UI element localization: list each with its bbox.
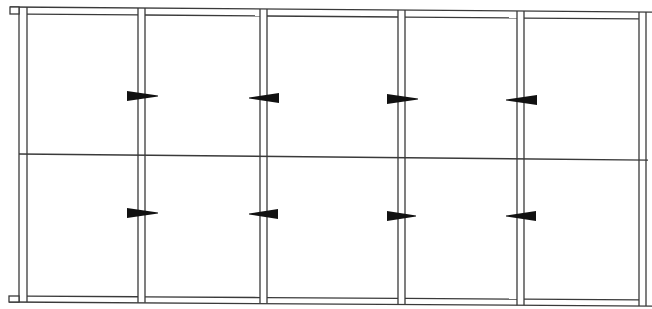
end-cap-bottom-left (9, 296, 19, 302)
wedge-arrow-icon (387, 211, 416, 221)
wedge-arrow-icon (127, 208, 158, 218)
top-rail-inner-line (267, 16, 398, 17)
bottom-rail-inner-line (267, 298, 398, 299)
wedge-arrow-icon (387, 94, 418, 104)
frame-drawing (0, 0, 652, 309)
wedge-arrow-icon (127, 91, 158, 101)
bottom-rail-inner-line (405, 298, 517, 299)
top-rail-outer-line (10, 7, 652, 12)
frame-diagram (0, 0, 652, 309)
mid-horizontal-line (19, 154, 648, 160)
wedge-arrow-icon (249, 93, 279, 103)
bottom-rail-outer-line (9, 302, 652, 306)
end-caps (9, 7, 19, 302)
bottom-rail-inner-line (27, 296, 138, 297)
top-rail-inner-line (405, 17, 517, 18)
top-rail-inner-line (524, 18, 639, 19)
bottom-rail-inner-line (145, 297, 260, 298)
top-rail-inner-line (27, 14, 138, 15)
wedge-arrow-icon (506, 95, 537, 105)
wedge-arrow-icon (506, 211, 536, 221)
mid-line (19, 154, 648, 160)
end-cap-top-left (10, 7, 19, 14)
wedge-arrow-icon (249, 209, 278, 219)
bottom-rail-inner-line (524, 299, 639, 300)
top-rail-inner-line (145, 15, 260, 16)
